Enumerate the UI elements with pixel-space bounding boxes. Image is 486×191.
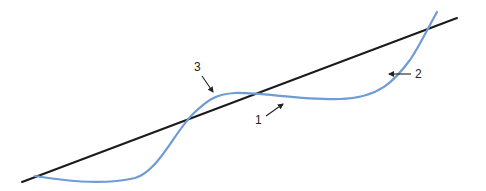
arrow-icon [266,104,283,116]
annotation-label: 2 [415,67,422,81]
annotation-label: 1 [255,113,262,127]
diagram-canvas: 312 [0,0,486,191]
oscillating-curve [35,12,437,182]
annotation-1: 1 [255,104,283,127]
annotation-label: 3 [194,60,201,74]
reference-line [22,18,457,182]
arrow-icon [202,76,213,92]
annotation-3: 3 [194,60,213,92]
